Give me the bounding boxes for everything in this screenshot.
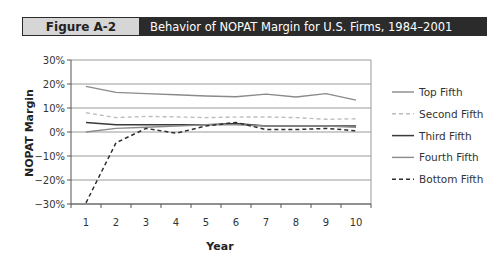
legend-label: Fourth Fifth [419,151,479,163]
y-axis-ticks: 30%20%10%0%−10%−20%−30% [34,55,71,210]
series-second-fifth [86,113,356,120]
legend: Top FifthSecond FifthThird FifthFourth F… [392,86,483,185]
y-tick-label: −20% [34,175,65,186]
line-chart: 30%20%10%0%−10%−20%−30% 12345678910 Top … [0,0,504,266]
y-tick-label: −30% [34,199,65,210]
x-tick-label: 1 [83,217,89,228]
x-tick-label: 4 [173,217,179,228]
y-tick-label: 30% [43,55,65,66]
x-tick-label: 3 [143,217,149,228]
legend-label: Second Fifth [419,108,483,120]
x-axis-title: Year [205,240,234,253]
series-fourth-fifth [86,125,356,132]
x-tick-label: 5 [203,217,209,228]
y-axis-title: NOPAT Margin [23,89,36,177]
series-top-fifth [86,86,356,100]
legend-label: Top Fifth [418,86,463,98]
y-tick-label: −10% [34,151,65,162]
data-series [86,86,356,202]
x-tick-label: 7 [263,217,269,228]
x-tick-label: 6 [233,217,239,228]
y-tick-label: 0% [49,127,65,138]
x-tick-label: 8 [293,217,299,228]
x-axis-ticks: 12345678910 [71,204,371,228]
legend-label: Third Fifth [418,130,472,142]
x-tick-label: 10 [350,217,363,228]
y-tick-label: 10% [43,103,65,114]
x-tick-label: 9 [323,217,329,228]
legend-label: Bottom Fifth [419,173,483,185]
series-bottom-fifth [86,122,356,202]
y-tick-label: 20% [43,79,65,90]
gridlines [71,60,371,204]
x-tick-label: 2 [113,217,119,228]
